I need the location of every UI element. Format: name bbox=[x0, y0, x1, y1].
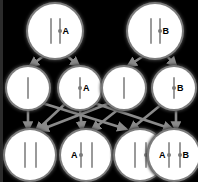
allele-label-a: A bbox=[63, 27, 70, 36]
chromatid: B bbox=[179, 142, 181, 168]
cell-p1: A bbox=[28, 4, 82, 58]
allele-label-b: B bbox=[177, 84, 184, 93]
chromosome-group bbox=[24, 142, 37, 168]
chromatid: A bbox=[168, 142, 170, 168]
node-layer: ABABABAB bbox=[0, 0, 198, 182]
centromere-marker bbox=[144, 153, 148, 157]
chromatid bbox=[134, 142, 136, 168]
cell-contents: A bbox=[59, 67, 101, 109]
cell-g2: A bbox=[59, 67, 101, 109]
diagram-canvas: ABABABAB bbox=[0, 0, 198, 182]
chromatid bbox=[150, 18, 152, 44]
chromatid: A bbox=[79, 77, 81, 99]
cell-contents bbox=[103, 67, 145, 109]
cell-contents: A bbox=[28, 4, 82, 58]
centromere-marker bbox=[172, 86, 176, 90]
cell-contents: B bbox=[153, 67, 195, 109]
chromatid: A bbox=[59, 18, 61, 44]
chromatid: A bbox=[80, 142, 82, 168]
centromere-marker bbox=[78, 86, 82, 90]
chromatid: B bbox=[145, 142, 147, 168]
centromere-marker bbox=[79, 153, 83, 157]
chromatid bbox=[27, 77, 29, 99]
allele-label-a: A bbox=[71, 151, 78, 160]
chromatid: B bbox=[173, 77, 175, 99]
cell-contents: A bbox=[61, 130, 111, 180]
cell-g4: B bbox=[153, 67, 195, 109]
chromosome-group bbox=[123, 77, 125, 99]
cell-contents bbox=[7, 67, 49, 109]
chromosome-group: B bbox=[150, 18, 161, 44]
cell-o1 bbox=[5, 130, 55, 180]
centromere-marker bbox=[158, 29, 162, 33]
chromatid: B bbox=[159, 18, 161, 44]
chromosome-group: AB bbox=[168, 142, 181, 168]
chromatid bbox=[50, 18, 52, 44]
chromatid bbox=[91, 142, 93, 168]
cell-contents: AB bbox=[149, 130, 198, 180]
chromosome-group: A bbox=[50, 18, 61, 44]
allele-label-a: A bbox=[83, 84, 90, 93]
chromosome-group: A bbox=[79, 77, 81, 99]
chromatid bbox=[123, 77, 125, 99]
chromatid bbox=[35, 142, 37, 168]
centromere-marker bbox=[178, 153, 182, 157]
cell-o2: A bbox=[61, 130, 111, 180]
cell-g1 bbox=[7, 67, 49, 109]
cell-g3 bbox=[103, 67, 145, 109]
centromere-marker bbox=[58, 29, 62, 33]
allele-label-b: B bbox=[163, 27, 170, 36]
chromatid bbox=[24, 142, 26, 168]
chromosome-group: B bbox=[173, 77, 175, 99]
allele-label-b: B bbox=[183, 151, 190, 160]
cell-p2: B bbox=[128, 4, 182, 58]
cell-o4: AB bbox=[149, 130, 198, 180]
allele-label-a: A bbox=[159, 151, 166, 160]
centromere-marker bbox=[167, 153, 171, 157]
chromosome-group: A bbox=[80, 142, 93, 168]
cell-contents bbox=[5, 130, 55, 180]
chromosome-group: B bbox=[134, 142, 147, 168]
chromosome-group bbox=[27, 77, 29, 99]
cell-contents: B bbox=[128, 4, 182, 58]
